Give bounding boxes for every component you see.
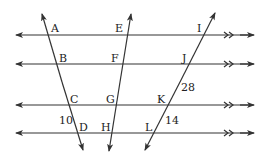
- point-label-j: J: [181, 52, 186, 65]
- point-label-e: E: [115, 22, 123, 35]
- point-label-l: L: [145, 121, 153, 134]
- parallel-line-3: [16, 102, 254, 108]
- parallel-line-2: [16, 61, 254, 67]
- point-label-b: B: [59, 52, 67, 65]
- point-label-a: A: [50, 22, 60, 35]
- geometry-diagram: A B C D E F G H I J K L 10 28 14: [0, 0, 268, 160]
- segment-length-jk: 28: [181, 81, 195, 94]
- segment-length-kl: 14: [165, 114, 179, 127]
- point-label-c: C: [70, 93, 78, 106]
- point-label-h: H: [101, 121, 111, 134]
- point-label-d: D: [79, 121, 88, 134]
- segment-length-cd: 10: [59, 114, 73, 127]
- point-label-f: F: [111, 52, 119, 65]
- parallel-line-4: [16, 130, 254, 136]
- point-label-i: I: [197, 22, 201, 35]
- point-label-k: K: [157, 93, 166, 106]
- point-label-g: G: [106, 93, 115, 106]
